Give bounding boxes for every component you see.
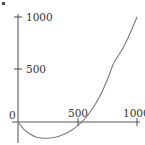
y-tick-label-500: 500 <box>26 63 46 75</box>
chart-figure: 1000 500 0 500 1000 <box>0 0 145 145</box>
origin-label-0: 0 <box>9 109 16 121</box>
x-tick-label-1000: 1000 <box>123 107 145 119</box>
plot-canvas: 1000 500 0 500 1000 <box>0 0 145 145</box>
corner-artifact-icon <box>2 2 5 5</box>
x-tick-label-500: 500 <box>68 107 88 119</box>
y-tick-label-1000: 1000 <box>26 11 53 23</box>
axis-lines <box>12 14 140 143</box>
